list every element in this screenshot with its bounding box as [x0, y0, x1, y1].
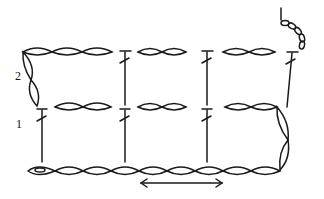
starting-tail: [281, 8, 305, 49]
turning-chain-left: [23, 52, 39, 106]
row2-treble-1: [120, 51, 131, 105]
slip-knot: [35, 168, 45, 172]
row2-chain-mid: [138, 49, 186, 56]
row2-treble-3: [286, 52, 298, 107]
foundation-chain: [28, 167, 280, 175]
row-label-1: 1: [16, 118, 22, 130]
turning-chain-right: [277, 107, 289, 170]
row1-chain-left: [55, 103, 111, 110]
row2-treble-2: [202, 51, 213, 105]
direction-arrow-icon: [141, 179, 222, 187]
row2-chain-right: [223, 49, 275, 56]
crochet-chart: [0, 0, 324, 199]
row2-chain-left: [23, 48, 112, 55]
row-label-2: 2: [15, 70, 21, 82]
row1-treble-3: [202, 109, 212, 162]
row1-treble-1: [37, 109, 47, 162]
row1-treble-2: [120, 109, 130, 162]
row1-chain-right: [225, 104, 277, 111]
row1-chain-mid: [138, 104, 186, 111]
